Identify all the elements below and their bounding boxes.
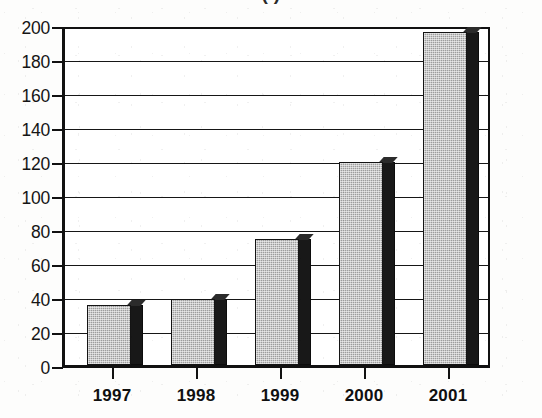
y-tick-label-20: 20 <box>6 324 50 345</box>
x-tick-mark-1999 <box>280 368 282 379</box>
bar-1998 <box>171 299 227 365</box>
x-tick-label-2001: 2001 <box>403 386 493 406</box>
bar-1997 <box>87 305 143 365</box>
bar-2000-side <box>381 162 395 365</box>
bar-1999-side <box>297 239 311 365</box>
bar-2001-side <box>465 32 479 365</box>
y-tick-label-120: 120 <box>6 154 50 175</box>
x-tick-label-1999: 1999 <box>235 386 325 406</box>
bar-1998-front <box>171 299 215 365</box>
bar-2000 <box>339 162 395 365</box>
y-tick-label-40: 40 <box>6 290 50 311</box>
y-tick-label-180: 180 <box>6 52 50 73</box>
y-tick-label-0: 0 <box>6 358 50 379</box>
x-tick-label-1998: 1998 <box>151 386 241 406</box>
chart-title-text: ( ) <box>0 0 542 5</box>
x-tick-mark-2001 <box>448 368 450 379</box>
bar-2000-front <box>339 162 383 365</box>
bar-1997-side <box>129 305 143 365</box>
bar-1997-front <box>87 305 131 365</box>
y-tick-label-160: 160 <box>6 86 50 107</box>
bar-1999 <box>255 239 311 365</box>
bar-1998-side <box>213 299 227 365</box>
x-tick-label-2000: 2000 <box>319 386 409 406</box>
bar-chart-figure: ( ) 0 20 40 60 80 100 120 140 160 180 20… <box>0 0 542 418</box>
bar-2001 <box>423 32 479 365</box>
x-tick-label-1997: 1997 <box>67 386 157 406</box>
y-tick-label-200: 200 <box>6 18 50 39</box>
bar-2001-front <box>423 32 467 365</box>
chart-title-cropped: ( ) <box>0 0 542 14</box>
y-tick-label-140: 140 <box>6 120 50 141</box>
y-tick-label-100: 100 <box>6 188 50 209</box>
y-tick-label-80: 80 <box>6 222 50 243</box>
plot-area <box>62 27 490 368</box>
x-tick-mark-2000 <box>364 368 366 379</box>
y-tick-label-60: 60 <box>6 256 50 277</box>
bar-1999-front <box>255 239 299 365</box>
x-tick-mark-1997 <box>112 368 114 379</box>
x-tick-mark-1998 <box>196 368 198 379</box>
